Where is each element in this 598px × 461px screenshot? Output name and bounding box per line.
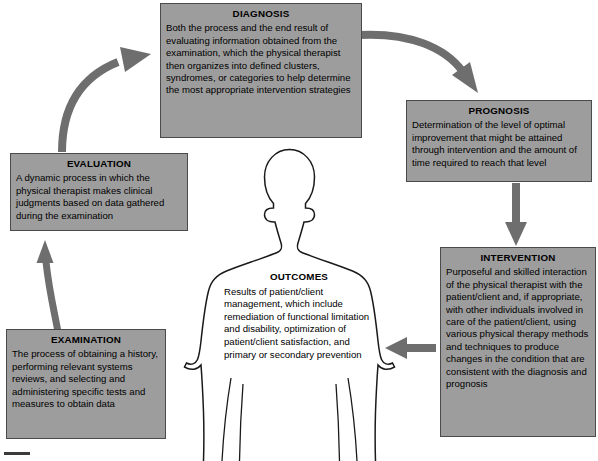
arrow-evaluation-to-diagnosis bbox=[62, 47, 151, 152]
box-evaluation[interactable]: EVALUATION A dynamic process in which th… bbox=[10, 153, 188, 231]
arrow-examination-to-evaluation bbox=[37, 240, 59, 332]
arrow-diagnosis-to-prognosis bbox=[358, 35, 478, 93]
box-prognosis-title: PROGNOSIS bbox=[412, 105, 586, 117]
page-scan-mark bbox=[4, 452, 30, 455]
box-intervention-body: Purposeful and skilled interaction of th… bbox=[446, 266, 590, 390]
box-diagnosis-title: DIAGNOSIS bbox=[166, 8, 356, 20]
arrow-intervention-to-outcomes bbox=[385, 337, 436, 359]
box-prognosis-body: Determination of the level of optimal im… bbox=[412, 119, 586, 169]
box-diagnosis-body: Both the process and the end result of e… bbox=[166, 22, 356, 96]
box-intervention[interactable]: INTERVENTION Purposeful and skilled inte… bbox=[440, 247, 596, 437]
box-intervention-title: INTERVENTION bbox=[446, 252, 590, 264]
box-examination-body: The process of obtaining a history, perf… bbox=[12, 348, 160, 410]
arrow-prognosis-to-intervention bbox=[505, 183, 527, 246]
box-evaluation-body: A dynamic process in which the physical … bbox=[16, 172, 182, 222]
box-prognosis[interactable]: PROGNOSIS Determination of the level of … bbox=[406, 100, 592, 182]
diagram-canvas: DIAGNOSIS Both the process and the end r… bbox=[0, 0, 598, 461]
box-evaluation-title: EVALUATION bbox=[16, 158, 182, 170]
outcomes-body: Results of patient/client management, wh… bbox=[224, 286, 369, 360]
box-examination-title: EXAMINATION bbox=[12, 334, 160, 346]
outcomes-title: OUTCOMES bbox=[224, 271, 374, 284]
outcomes-text-block: OUTCOMES Results of patient/client manag… bbox=[224, 271, 374, 361]
box-examination[interactable]: EXAMINATION The process of obtaining a h… bbox=[6, 329, 166, 439]
box-diagnosis[interactable]: DIAGNOSIS Both the process and the end r… bbox=[160, 3, 362, 138]
